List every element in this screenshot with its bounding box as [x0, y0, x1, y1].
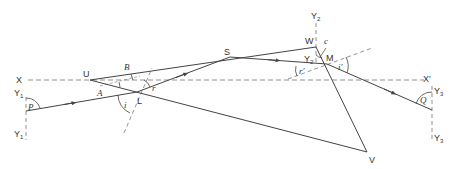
label-angle-r: r [152, 83, 156, 93]
label-V: V [369, 155, 375, 165]
label-Y1-top: Y1 [14, 88, 24, 99]
label-Y2-mid: Y2 [304, 54, 314, 65]
label-S: S [224, 47, 230, 57]
refracted-ray-arrow [176, 74, 186, 78]
label-angle-r-prime: r′ [299, 66, 306, 76]
label-U: U [83, 69, 90, 79]
label-angle-Q: Q [420, 95, 427, 105]
label-X: X [16, 75, 22, 85]
angle-arc-i-prime [346, 57, 348, 73]
incident-ray [26, 92, 137, 111]
label-A: A [96, 88, 103, 98]
angle-arc-A [119, 82, 120, 87]
label-Y3-bottom: Y3 [434, 133, 444, 144]
label-L: L [137, 96, 142, 106]
label-W: W [305, 36, 314, 46]
label-angle-i: i [124, 100, 127, 110]
diagram-canvas: X X′ Y1 Y1 Y2 Y2 Y3 Y3 U B A L S W c M V… [0, 0, 452, 169]
label-X-prime: X′ [423, 74, 431, 84]
angle-arc-r-prime [296, 66, 297, 76]
prism-face-UV [90, 80, 367, 152]
angle-arc-B [131, 74, 133, 80]
incident-ray-arrow [64, 103, 74, 105]
label-Y3-top: Y3 [434, 86, 444, 97]
label-c: c [324, 36, 328, 46]
label-B: B [124, 62, 130, 72]
label-M: M [326, 53, 334, 63]
internal-ray-arrow [268, 60, 278, 61]
label-Y1-bottom: Y1 [14, 129, 24, 140]
label-angle-P: P [27, 102, 34, 112]
angle-arc-r [144, 80, 150, 87]
emergent-ray-arrow [384, 89, 394, 93]
prism-diagram: X X′ Y1 Y1 Y2 Y2 Y3 Y3 U B A L S W c M V… [0, 0, 452, 169]
label-Y2-top: Y2 [311, 11, 321, 22]
